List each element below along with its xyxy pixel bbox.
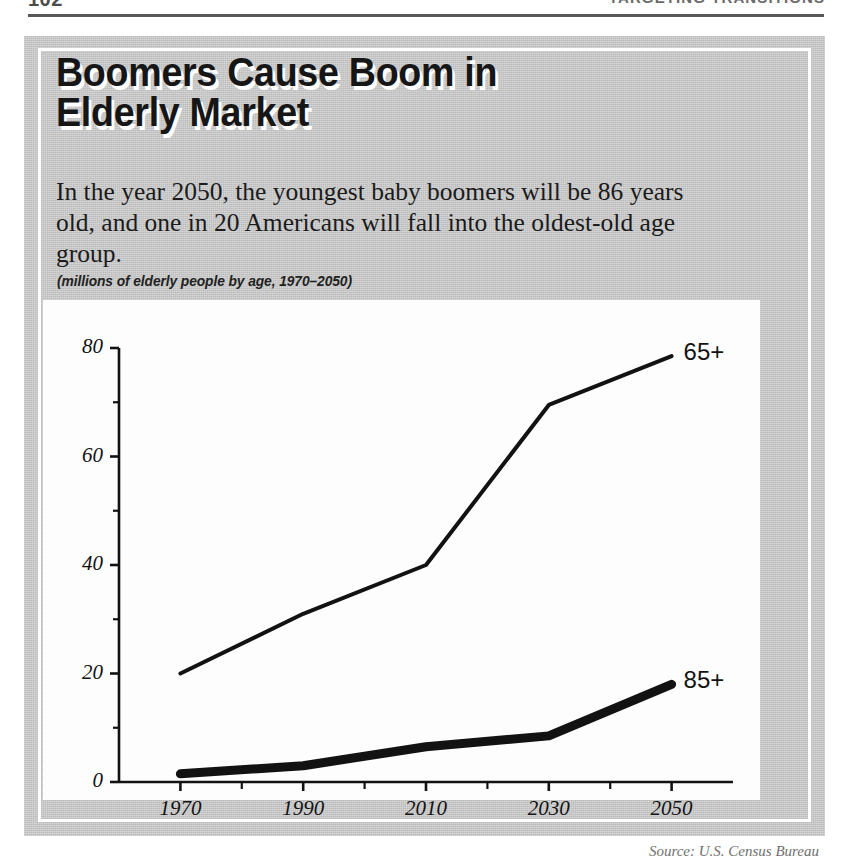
y-axis-tick-label: 60: [43, 443, 103, 468]
x-axis-tick-label: 2010: [376, 796, 476, 821]
x-axis-tick-label: 1990: [253, 796, 353, 821]
headline-line-1: Boomers Cause Boom in: [56, 50, 497, 94]
running-head-title: TARGETING TRANSITIONS: [609, 0, 825, 6]
article-deck: In the year 2050, the youngest baby boom…: [56, 176, 696, 269]
running-head: 102 TARGETING TRANSITIONS: [0, 0, 849, 30]
y-axis-tick-label: 20: [43, 660, 103, 685]
y-axis-tick-label: 80: [43, 334, 103, 359]
chart-source: Source: U.S. Census Bureau: [649, 843, 819, 857]
chart-plate: 0204060801970199020102030205065+85+: [43, 300, 760, 800]
page-title: Boomers Cause Boom in Elderly Market: [56, 52, 676, 132]
x-axis-tick-label: 2050: [622, 796, 722, 821]
header-rule: [28, 14, 824, 17]
y-axis-tick-label: 0: [43, 768, 103, 793]
x-axis-tick-label: 2030: [499, 796, 599, 821]
chart-caption: (millions of elderly people by age, 1970…: [57, 272, 352, 289]
page-folio: 102: [28, 0, 63, 11]
series-label-65plus: 65+: [684, 338, 725, 366]
series-label-85plus: 85+: [684, 666, 725, 694]
headline-line-2: Elderly Market: [56, 92, 676, 132]
y-axis-tick-label: 40: [43, 551, 103, 576]
line-chart: [43, 300, 760, 800]
x-axis-tick-label: 1970: [130, 796, 230, 821]
